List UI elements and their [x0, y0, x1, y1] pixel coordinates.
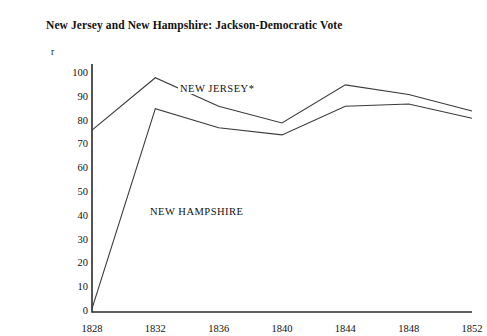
- series-label-new-hampshire: NEW HAMPSHIRE: [148, 206, 246, 217]
- x-axis-tick-label: 1852: [445, 323, 487, 334]
- x-axis-tick-label: 1840: [255, 323, 309, 334]
- chart-figure: New Jersey and New Hampshire: Jackson-De…: [40, 16, 399, 315]
- x-axis-labels: 1828183218361840184418481852: [40, 16, 479, 336]
- x-axis-tick-label: 1836: [192, 323, 246, 334]
- x-axis-tick-label: 1832: [128, 323, 182, 334]
- series-label-new-jersey: NEW JERSEY*: [178, 83, 256, 94]
- x-axis-tick-label: 1828: [65, 323, 119, 334]
- x-axis-tick-label: 1848: [382, 323, 436, 334]
- x-axis-tick-label: 1844: [318, 323, 372, 334]
